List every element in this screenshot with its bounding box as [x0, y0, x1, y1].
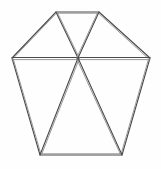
figure-container — [0, 0, 161, 169]
pentagon-line-drawing — [0, 0, 161, 169]
figure-background — [0, 0, 161, 169]
